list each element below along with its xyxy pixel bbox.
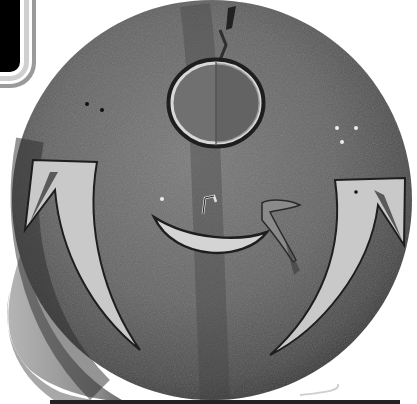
strap xyxy=(300,384,338,395)
shield-photo xyxy=(0,0,417,404)
